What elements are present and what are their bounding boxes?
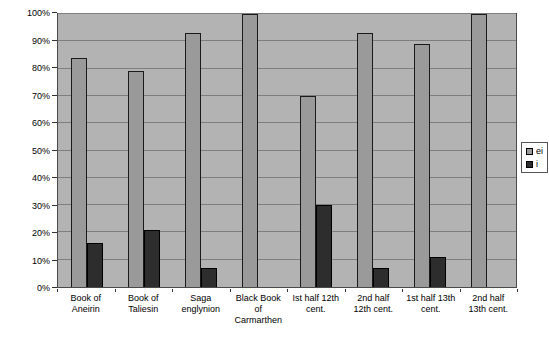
bar-ei-4 — [300, 96, 316, 287]
bar-i-6 — [430, 257, 446, 287]
bar-ei-2 — [185, 33, 201, 287]
bar-ei-0 — [71, 58, 87, 287]
x-label-0: Book of Aneirin — [57, 293, 115, 326]
category-group-5 — [344, 14, 401, 287]
legend-swatch-ei-icon — [526, 148, 533, 155]
y-axis-ticks — [0, 13, 57, 288]
category-group-6 — [402, 14, 459, 287]
bar-ei-7 — [471, 14, 487, 287]
legend-label-ei: ei — [536, 147, 543, 156]
bar-ei-1 — [128, 71, 144, 287]
bar-ei-3 — [242, 14, 258, 287]
x-tick-mark — [460, 289, 461, 292]
category-group-2 — [173, 14, 230, 287]
bars-layer — [58, 14, 516, 287]
legend: eii — [521, 142, 548, 173]
category-group-4 — [287, 14, 344, 287]
bar-i-1 — [144, 230, 160, 287]
x-tick-mark — [172, 289, 173, 292]
x-label-2: Saga englynion — [172, 293, 230, 326]
category-group-1 — [115, 14, 172, 287]
category-group-7 — [459, 14, 516, 287]
bar-chart: 0%10%20%30%40%50%60%70%80%90%100% Book o… — [0, 0, 549, 342]
legend-item-ei: ei — [526, 147, 543, 156]
legend-swatch-i-icon — [526, 161, 533, 168]
bar-ei-6 — [414, 44, 430, 287]
x-tick-mark — [230, 289, 231, 292]
category-group-3 — [230, 14, 287, 287]
x-axis: Book of AneirinBook of TaliesinSaga engl… — [57, 293, 517, 326]
x-label-4: Ist half 12th cent. — [287, 293, 345, 326]
x-tick-mark — [57, 289, 58, 292]
x-label-3: Black Book of Carmarthen — [230, 293, 288, 326]
bar-i-0 — [87, 243, 103, 287]
bar-ei-5 — [357, 33, 373, 287]
x-label-5: 2nd half 12th cent. — [345, 293, 403, 326]
legend-item-i: i — [526, 160, 543, 169]
x-tick-mark — [517, 289, 518, 292]
bar-i-5 — [373, 268, 389, 287]
x-label-7: 2nd half 13th cent. — [460, 293, 518, 326]
category-group-0 — [58, 14, 115, 287]
x-label-1: Book of Taliesin — [115, 293, 173, 326]
plot-area — [57, 13, 517, 288]
x-tick-mark — [402, 289, 403, 292]
x-label-6: 1st half 13th cent. — [402, 293, 460, 326]
x-tick-mark — [115, 289, 116, 292]
legend-label-i: i — [536, 160, 538, 169]
x-tick-mark — [287, 289, 288, 292]
x-tick-mark — [345, 289, 346, 292]
bar-i-4 — [316, 205, 332, 287]
bar-i-2 — [201, 268, 217, 287]
